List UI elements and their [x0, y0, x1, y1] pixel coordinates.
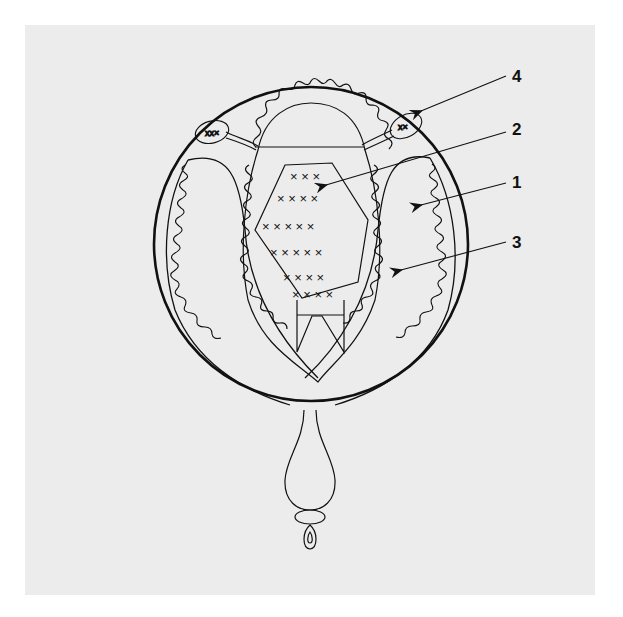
right-cilia — [396, 164, 446, 338]
svg-text:× × × ×: × × × × — [283, 270, 324, 285]
diagram-drawing: xx× x× × × × × × × × × × × × × × × × × ×… — [0, 0, 623, 617]
svg-text:× × × ×: × × × × — [277, 191, 318, 206]
leader-lines — [326, 76, 506, 270]
label-2: 2 — [512, 120, 521, 140]
central-stalk — [297, 300, 344, 352]
svg-text:x×: x× — [398, 122, 408, 132]
svg-text:× × × ×: × × × × — [292, 287, 333, 302]
left-cilia — [171, 165, 221, 339]
svg-text:× × ×: × × × — [290, 169, 320, 184]
hexagonal-plate: × × × × × × × × × × × × × × × × × × × × … — [255, 163, 368, 302]
label-1: 1 — [512, 173, 521, 193]
pendant — [285, 410, 335, 549]
svg-text:× × × × ×: × × × × × — [262, 219, 314, 234]
label-4: 4 — [512, 67, 521, 87]
svg-text:xx×: xx× — [205, 128, 219, 138]
left-attachment: xx× — [193, 117, 258, 150]
right-lobe — [305, 157, 455, 405]
label-3: 3 — [512, 233, 521, 253]
svg-text:× × × × ×: × × × × × — [270, 245, 322, 260]
